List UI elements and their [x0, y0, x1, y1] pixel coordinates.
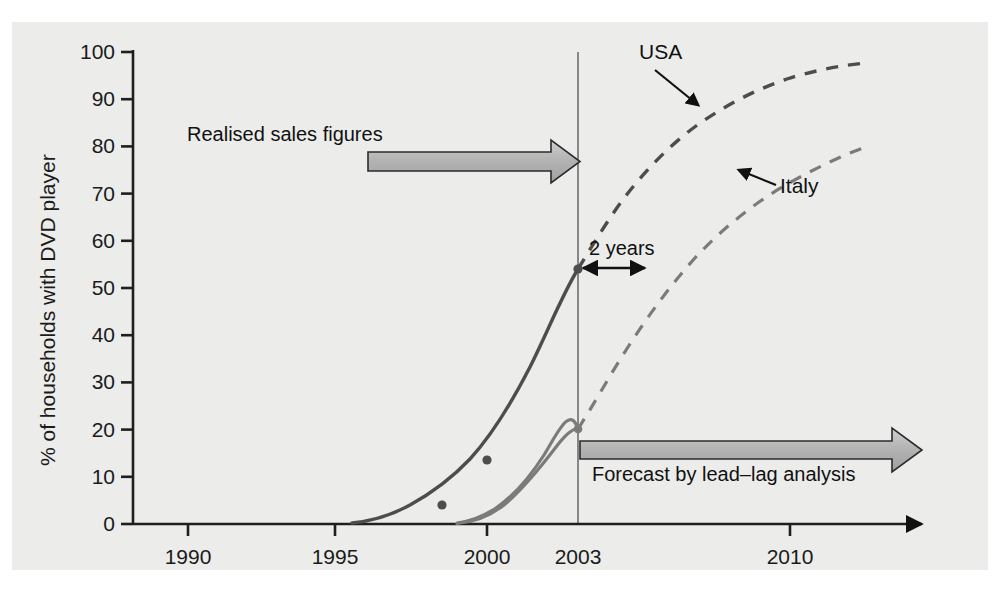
y-tick-label-80: 80: [75, 134, 115, 158]
y-tick-label-10: 10: [75, 465, 115, 489]
y-tick-label-70: 70: [75, 182, 115, 206]
x-tick-label-2010: 2010: [750, 545, 830, 569]
series-italy-realised: [457, 429, 578, 524]
usa-callout-pointer-icon: [655, 70, 698, 105]
y-axis-title: % of households with DVD player: [36, 154, 60, 466]
forecast-label: Forecast by lead–lag analysis: [592, 463, 855, 486]
x-axis-ticks: [188, 524, 790, 536]
y-tick-label-100: 100: [75, 40, 115, 64]
y-tick-label-20: 20: [75, 418, 115, 442]
y-axis-ticks: [121, 52, 133, 524]
series-label-italy: Italy: [780, 174, 819, 198]
italy-callout-pointer-icon: [739, 170, 776, 185]
y-tick-label-90: 90: [75, 87, 115, 111]
x-tick-label-1990: 1990: [148, 545, 228, 569]
series-italy-dashed: [578, 147, 866, 429]
realised-sales-label: Realised sales figures: [187, 123, 383, 146]
x-tick-label-1995: 1995: [295, 545, 375, 569]
series-italy-solid-2: [457, 421, 578, 523]
two-years-label: 2 years: [589, 237, 655, 260]
series-italy-solid: [457, 420, 578, 523]
y-tick-label-60: 60: [75, 229, 115, 253]
y-tick-label-40: 40: [75, 323, 115, 347]
x-tick-label-2000: 2000: [447, 545, 527, 569]
chart-figure: % of households with DVD player 100 90 8…: [0, 0, 1004, 592]
x-tick-label-2003: 2003: [538, 545, 618, 569]
y-tick-label-0: 0: [75, 512, 115, 536]
y-tick-label-30: 30: [75, 370, 115, 394]
series-italy-markers: [574, 425, 583, 434]
y-tick-label-50: 50: [75, 276, 115, 300]
series-usa-solid: [352, 269, 578, 523]
series-label-usa: USA: [639, 40, 682, 64]
realised-sales-arrow: [368, 140, 580, 183]
chart-plot-area: [0, 0, 1004, 592]
